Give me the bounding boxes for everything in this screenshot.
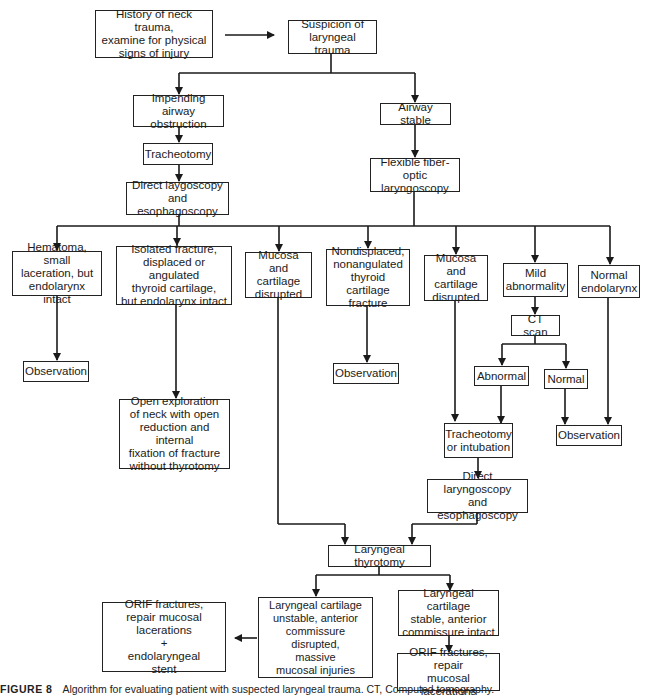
node-abnormal: Abnormal	[474, 366, 529, 386]
node-hematoma: Hematoma, small laceration, but endolary…	[12, 251, 102, 296]
node-cartilage-unstable: Laryngeal cartilage unstable, anterior c…	[258, 597, 373, 678]
node-airway-stable: Airway stable	[380, 103, 451, 125]
node-laryngeal-thyrotomy: Laryngeal thyrotomy	[328, 545, 431, 567]
node-observation-2: Observation	[333, 363, 399, 384]
node-suspicion: Suspicion of laryngeal trauma	[288, 20, 377, 54]
node-direct-laryngoscopy-1: Direct laygoscopy and esophagoscopy	[126, 182, 229, 215]
node-tracheotomy: Tracheotomy	[143, 143, 213, 165]
node-tracheotomy-intubation: Tracheotomy or intubation	[444, 423, 513, 458]
figure-label: FIGURE 8	[0, 683, 52, 695]
node-cartilage-stable: Laryngeal cartilage stable, anterior com…	[398, 590, 499, 636]
node-orif-stent: ORIF fractures, repair mucosal laceratio…	[102, 602, 226, 672]
node-nondisplaced-fracture: Nondisplaced, nonangulated thyroid carti…	[326, 249, 410, 306]
node-observation-3: Observation	[556, 425, 622, 446]
node-open-exploration: Open exploration of neck with open reduc…	[119, 399, 230, 469]
connector-lines	[0, 0, 647, 696]
node-history: History of neck trauma, examine for phys…	[95, 10, 213, 58]
node-observation-1: Observation	[23, 361, 89, 382]
node-mucosa-disrupted-2: Mucosa and cartilage disrupted	[424, 255, 488, 301]
node-normal: Normal	[544, 369, 588, 389]
node-impending-obstruction: Impending airway obstruction	[133, 95, 224, 127]
figure-caption-text: Algorithm for evaluating patient with su…	[62, 683, 494, 695]
figure-caption: FIGURE 8Algorithm for evaluating patient…	[0, 683, 494, 695]
node-normal-endolarynx: Normal endolarynx	[578, 265, 640, 298]
node-isolated-fracture: Isolated fracture, displaced or angulate…	[116, 246, 232, 305]
node-mucosa-disrupted-1: Mucosa and cartilage disrupted	[245, 252, 312, 298]
node-ct-scan: CT scan	[511, 315, 560, 336]
node-mild-abnormality: Mild abnormality	[503, 263, 568, 297]
node-flexible-laryngoscopy: Flexible fiber-optic laryngoscopy	[370, 158, 460, 192]
node-direct-laryngoscopy-2: Direct laryngoscopy and esophagoscopy	[427, 479, 528, 513]
